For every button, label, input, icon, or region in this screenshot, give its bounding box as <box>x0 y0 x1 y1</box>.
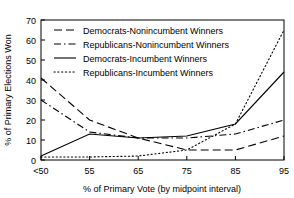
x-tick-label: <50 <box>33 166 48 176</box>
y-tick-label: 40 <box>26 76 36 86</box>
y-tick-label: 10 <box>26 136 36 146</box>
x-axis-ticks: <505565758595 <box>33 156 289 176</box>
x-tick-label: 65 <box>133 166 143 176</box>
x-tick-label: 75 <box>182 166 192 176</box>
x-tick-label: 55 <box>85 166 95 176</box>
y-tick-label: 50 <box>26 56 36 66</box>
chart-legend: Democrats-Nonincumbent WinnersRepublican… <box>54 26 230 78</box>
legend-label-3: Republicans-Incumbent Winners <box>83 68 214 78</box>
legend-label-2: Democrats-Incumbent Winners <box>83 54 208 64</box>
y-tick-label: 30 <box>26 96 36 106</box>
chart-container: 010203040506070 <505565758595 Democrats-… <box>0 0 294 198</box>
y-tick-label: 0 <box>31 156 36 166</box>
series-line-2 <box>41 72 284 156</box>
legend-label-0: Democrats-Nonincumbent Winners <box>83 26 224 36</box>
x-axis-title: % of Primary Vote (by midpoint interval) <box>83 184 241 194</box>
x-tick-label: 85 <box>230 166 240 176</box>
y-tick-label: 60 <box>26 36 36 46</box>
line-chart: 010203040506070 <505565758595 Democrats-… <box>0 0 294 198</box>
legend-label-1: Republicans-Nonincumbent Winners <box>83 40 230 50</box>
y-tick-label: 20 <box>26 116 36 126</box>
y-tick-label: 70 <box>26 16 36 26</box>
x-tick-label: 95 <box>279 166 289 176</box>
y-axis-ticks: 010203040506070 <box>26 16 45 166</box>
series-line-1 <box>41 100 284 138</box>
y-axis-title: % of Primary Elections Won <box>3 34 13 145</box>
